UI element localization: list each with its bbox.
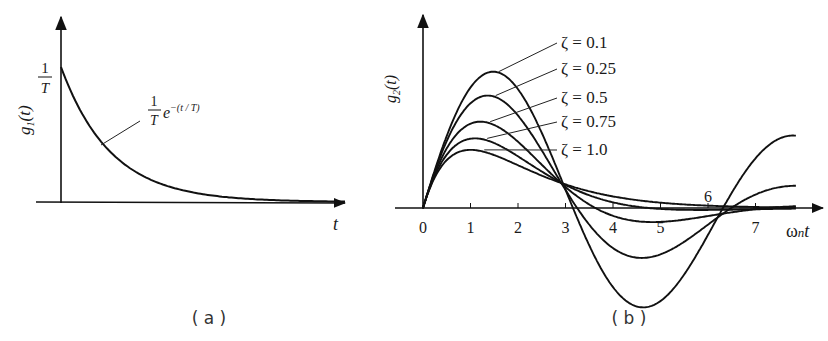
- legend-leader-line: [490, 98, 557, 122]
- panel-a-ytick-num: 1: [41, 60, 49, 76]
- annotation-den: T: [150, 113, 159, 128]
- panel-a-x-axis: [36, 202, 345, 203]
- panel-a-ytick-den: T: [41, 80, 51, 96]
- panel-a-y-label: g1(t): [15, 105, 36, 135]
- legend-leader-line: [487, 122, 557, 138]
- x-tick-label: 7: [752, 219, 760, 236]
- figure-canvas: 1 T g1(t) 1 T e−(t / T) t ( a ) 01234567…: [0, 0, 828, 341]
- panel-b: 01234567 ζ = 0.1ζ = 0.25ζ = 0.5ζ = 0.75ζ…: [382, 15, 823, 328]
- panel-a-x-label: t: [333, 214, 339, 234]
- caption-a: ( a ): [192, 308, 227, 328]
- legend-label: ζ = 0.1: [561, 33, 607, 52]
- legend-label: ζ = 0.75: [561, 112, 616, 131]
- x-tick-label: 2: [514, 219, 522, 236]
- curve-zeta-0-1: [423, 72, 796, 308]
- svg-text:g2(t): g2(t): [382, 75, 402, 103]
- curve-zeta-0-75: [423, 138, 796, 210]
- x-tick-label: 1: [467, 219, 475, 236]
- svg-text:g1(t): g1(t): [15, 105, 36, 135]
- legend-label: ζ = 0.25: [561, 59, 616, 78]
- panel-a-decay-curve: [61, 67, 345, 202]
- legend-leader-line: [496, 69, 557, 96]
- caption-b: ( b ): [612, 308, 647, 328]
- x-tick-label: 0: [419, 219, 427, 236]
- panel-b-y-label: g2(t): [382, 75, 402, 103]
- panel-a: 1 T g1(t) 1 T e−(t / T) t ( a ): [15, 17, 345, 328]
- legend-label: ζ = 0.5: [561, 88, 607, 107]
- panel-b-curves: [423, 72, 796, 308]
- x-tick-label: 4: [609, 219, 617, 236]
- x-tick-label: 6: [704, 188, 712, 205]
- annotation-expr: e−(t / T): [163, 102, 200, 121]
- panel-b-legend: ζ = 0.1ζ = 0.25ζ = 0.5ζ = 0.75ζ = 1.0: [484, 33, 616, 159]
- panel-a-annotation-leader: [101, 121, 140, 145]
- legend-label: ζ = 1.0: [561, 140, 607, 159]
- panel-b-x-label: ωnt: [786, 221, 810, 241]
- x-tick-label: 3: [562, 219, 570, 236]
- legend-leader-line: [499, 43, 557, 72]
- annotation-num: 1: [151, 94, 158, 109]
